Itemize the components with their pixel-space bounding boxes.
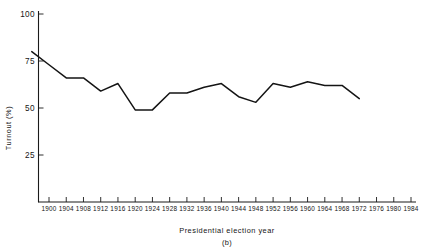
x-tick-label-1952: 1952 bbox=[265, 205, 280, 212]
x-tick-label-1936: 1936 bbox=[197, 205, 212, 212]
x-tick-label-1972: 1972 bbox=[352, 205, 367, 212]
x-tick-label-1948: 1948 bbox=[248, 205, 263, 212]
x-tick-label-1940: 1940 bbox=[214, 205, 229, 212]
panel-label: (b) bbox=[222, 238, 232, 247]
x-tick-label-1916: 1916 bbox=[110, 205, 125, 212]
x-tick-label-1920: 1920 bbox=[128, 205, 143, 212]
y-tick-label-100: 100 bbox=[20, 10, 35, 19]
x-tick-label-1944: 1944 bbox=[231, 205, 246, 212]
y-axis-ticks bbox=[39, 14, 44, 155]
x-tick-label-1900: 1900 bbox=[41, 205, 56, 212]
x-tick-label-1912: 1912 bbox=[93, 205, 108, 212]
x-tick-label-1904: 1904 bbox=[59, 205, 74, 212]
x-tick-label-1932: 1932 bbox=[179, 205, 194, 212]
x-tick-label-1908: 1908 bbox=[76, 205, 91, 212]
turnout-line-chart: 100 75 50 25 190019041908191219161920192… bbox=[0, 0, 423, 247]
x-tick-label-1968: 1968 bbox=[334, 205, 349, 212]
y-axis-title: Turnout (%) bbox=[4, 106, 13, 150]
x-tick-label-1960: 1960 bbox=[300, 205, 315, 212]
x-tick-label-1924: 1924 bbox=[145, 205, 160, 212]
x-tick-label-1984: 1984 bbox=[403, 205, 418, 212]
x-tick-label-1976: 1976 bbox=[369, 205, 384, 212]
y-tick-label-25: 25 bbox=[25, 151, 35, 160]
turnout-data-line bbox=[32, 52, 360, 110]
x-axis-ticks bbox=[49, 197, 411, 202]
x-tick-label-1980: 1980 bbox=[386, 205, 401, 212]
x-tick-label-1956: 1956 bbox=[283, 205, 298, 212]
y-axis-tick-labels: 100 75 50 25 bbox=[20, 10, 35, 160]
x-axis-tick-labels: 1900190419081912191619201924192819321936… bbox=[41, 205, 418, 212]
x-tick-label-1964: 1964 bbox=[317, 205, 332, 212]
y-tick-label-75: 75 bbox=[25, 57, 35, 66]
figure-container: 100 75 50 25 190019041908191219161920192… bbox=[0, 0, 423, 247]
x-axis-title: Presidential election year bbox=[179, 226, 275, 235]
y-tick-label-50: 50 bbox=[25, 104, 35, 113]
x-tick-label-1928: 1928 bbox=[162, 205, 177, 212]
